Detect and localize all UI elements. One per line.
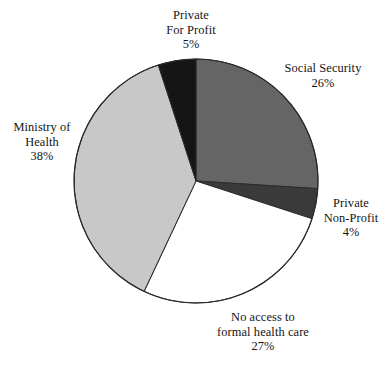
pie-label-private-for-profit-line2: For Profit — [139, 23, 243, 38]
pie-label-ministry-of-health-line2: Health — [2, 135, 82, 150]
pie-chart-figure: Private For Profit 5% Social Security 26… — [0, 0, 387, 366]
pie-label-private-non-profit: Private Non-Profit 4% — [316, 196, 386, 240]
pie-label-ministry-of-health-line1: Ministry of — [2, 120, 82, 135]
pie-label-social-security-line1: Social Security — [262, 61, 384, 76]
pie-label-no-access-value: 27% — [196, 339, 330, 354]
pie-label-ministry-of-health: Ministry of Health 38% — [2, 120, 82, 164]
pie-slices — [74, 59, 318, 303]
pie-label-private-non-profit-value: 4% — [316, 225, 386, 240]
pie-label-ministry-of-health-value: 38% — [2, 149, 82, 164]
pie-label-private-non-profit-line2: Non-Profit — [316, 211, 386, 226]
pie-label-private-for-profit-value: 5% — [139, 37, 243, 52]
pie-label-private-non-profit-line1: Private — [316, 196, 386, 211]
pie-label-private-for-profit: Private For Profit 5% — [139, 8, 243, 52]
pie-label-social-security: Social Security 26% — [262, 61, 384, 90]
pie-label-no-access-line2: formal health care — [196, 325, 330, 340]
pie-label-no-access: No access to formal health care 27% — [196, 310, 330, 354]
pie-label-no-access-line1: No access to — [196, 310, 330, 325]
pie-label-social-security-value: 26% — [262, 76, 384, 91]
pie-label-private-for-profit-line1: Private — [139, 8, 243, 23]
